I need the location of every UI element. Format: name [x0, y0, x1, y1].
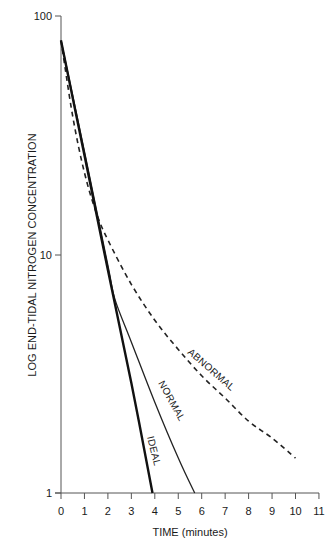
nitrogen-washout-chart: 100 10 1 01234567891011 LOG END-TIDAL NI… [0, 0, 336, 550]
x-tick-3: 3 [128, 505, 134, 517]
x-tick-4: 4 [152, 505, 158, 517]
x-tick-7: 7 [222, 505, 228, 517]
y-axis-title: LOG END-TIDAL NITROGEN CONCENTRATION [26, 133, 38, 376]
y-tick-1: 1 [46, 487, 52, 499]
y-tick-10: 10 [40, 249, 52, 261]
x-tick-10: 10 [289, 505, 301, 517]
curve-ideal [61, 40, 153, 493]
label-abnormal: ABNORMAL [186, 346, 237, 393]
curve-abnormal [61, 40, 296, 458]
x-tick-6: 6 [199, 505, 205, 517]
x-tick-2: 2 [105, 505, 111, 517]
x-tick-1: 1 [81, 505, 87, 517]
x-axis: 01234567891011 [55, 493, 325, 517]
x-axis-title: TIME (minutes) [152, 526, 227, 538]
x-tick-9: 9 [269, 505, 275, 517]
x-tick-8: 8 [246, 505, 252, 517]
x-tick-5: 5 [175, 505, 181, 517]
x-tick-11: 11 [313, 505, 324, 517]
x-tick-0: 0 [58, 505, 64, 517]
y-tick-100: 100 [34, 10, 52, 22]
curve-normal [61, 40, 195, 493]
